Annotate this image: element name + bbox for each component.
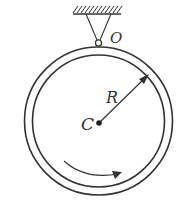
- label-center-C: C: [81, 114, 94, 134]
- center-point: [96, 120, 102, 126]
- ring-pendulum-diagram: O C R: [0, 0, 183, 219]
- label-radius-R: R: [105, 88, 118, 107]
- label-pivot-O: O: [110, 29, 122, 47]
- rotation-arrow: [64, 161, 122, 179]
- pivot-hinge-top: [96, 40, 102, 46]
- ceiling-support: [73, 6, 122, 14]
- hanger: [86, 14, 111, 40]
